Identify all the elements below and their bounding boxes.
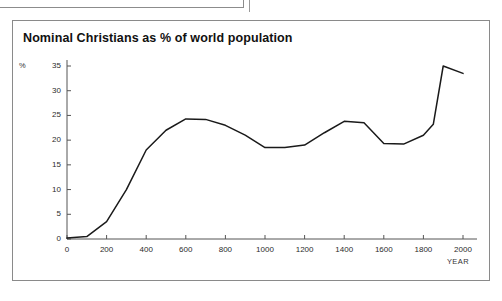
y-tick-label: 0 — [43, 234, 61, 243]
x-tick-label: 0 — [52, 245, 82, 254]
x-tick-label: 1600 — [369, 245, 399, 254]
top-divider — [249, 0, 250, 12]
tick-marks-group — [67, 66, 463, 239]
chart-panel: Nominal Christians as % of world populat… — [12, 20, 490, 281]
x-tick-label: 1000 — [250, 245, 280, 254]
y-tick-label: 5 — [43, 209, 61, 218]
y-tick-label: 35 — [43, 61, 61, 70]
x-tick-label: 1800 — [408, 245, 438, 254]
plot-area: 05101520253035 0200400600800100012001400… — [13, 21, 491, 282]
y-tick-label: 30 — [43, 86, 61, 95]
x-tick-label: 1200 — [290, 245, 320, 254]
y-tick-label: 10 — [43, 185, 61, 194]
x-tick-label: 600 — [171, 245, 201, 254]
y-tick-label: 15 — [43, 160, 61, 169]
x-tick-label: 2000 — [448, 245, 478, 254]
data-series-line — [67, 66, 463, 238]
x-tick-label: 400 — [131, 245, 161, 254]
screenshot-root: Nominal Christians as % of world populat… — [0, 0, 502, 301]
x-tick-label: 800 — [210, 245, 240, 254]
axes-group — [67, 60, 477, 239]
y-tick-label: 25 — [43, 110, 61, 119]
chart-svg — [13, 21, 491, 282]
x-tick-label: 200 — [92, 245, 122, 254]
x-tick-label: 1400 — [329, 245, 359, 254]
top-panel-fragment — [0, 0, 244, 8]
y-tick-label: 20 — [43, 135, 61, 144]
